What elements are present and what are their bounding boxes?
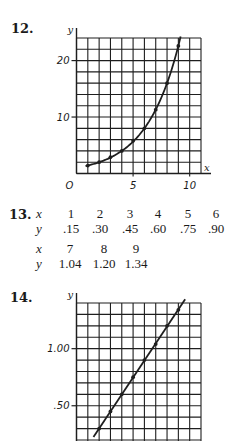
data-point [143, 358, 147, 362]
data-point [154, 342, 158, 346]
y-tick-label: 1.00 [47, 343, 69, 354]
chart-problem-14: y.501.00 [0, 0, 246, 441]
data-point [176, 308, 180, 312]
fit-line [93, 299, 185, 437]
y-tick-label: .50 [54, 400, 70, 411]
data-point [165, 324, 169, 328]
data-point [120, 392, 124, 396]
data-point [131, 375, 135, 379]
data-point [109, 410, 113, 414]
y-axis-label: y [67, 289, 74, 300]
data-point [97, 427, 101, 431]
